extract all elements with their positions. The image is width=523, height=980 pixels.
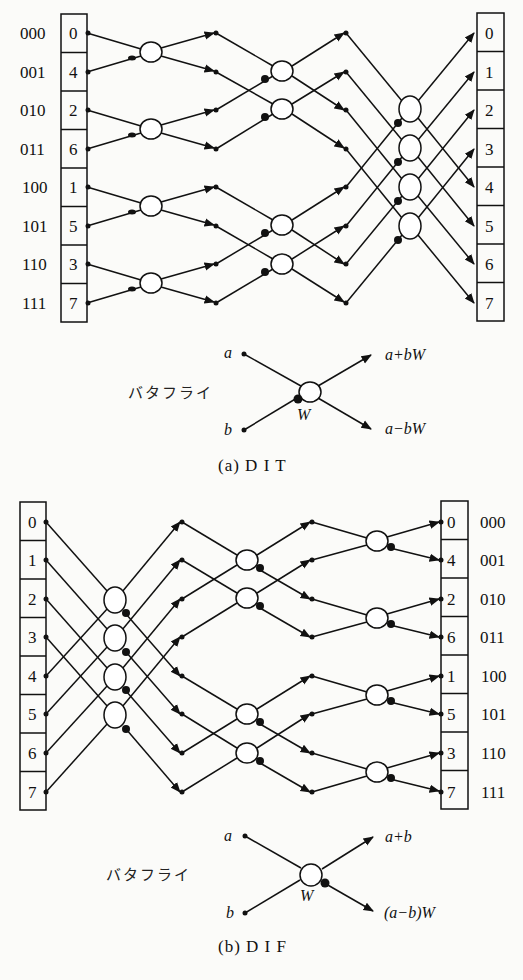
dif-output-bit-labels: 000 001 010 011 100 101 110 111: [480, 513, 507, 802]
svg-text:011: 011: [20, 140, 45, 159]
svg-text:b: b: [224, 421, 232, 438]
dit-stage-3: [346, 33, 474, 303]
svg-text:6: 6: [28, 744, 37, 763]
dif-input-register: [20, 502, 46, 810]
svg-text:7: 7: [28, 783, 37, 802]
svg-text:バタフライ: バタフライ: [106, 866, 191, 884]
svg-text:a: a: [224, 344, 232, 361]
dit-butterfly-circles: [140, 42, 421, 293]
svg-text:4: 4: [485, 178, 494, 197]
svg-text:011: 011: [480, 628, 505, 647]
svg-text:010: 010: [480, 590, 506, 609]
dit-input-register: [61, 14, 87, 322]
svg-text:2: 2: [447, 590, 456, 609]
svg-text:1: 1: [447, 667, 456, 686]
svg-text:7: 7: [485, 294, 494, 313]
dif-output-index-labels: 0 4 2 6 1 5 3 7: [447, 513, 456, 802]
svg-text:111: 111: [22, 294, 46, 313]
svg-text:000: 000: [20, 24, 46, 43]
svg-text:a: a: [224, 827, 232, 844]
svg-text:バタフライ: バタフライ: [128, 384, 213, 402]
dit-output-index-labels: 0 1 2 3 4 5 6 7: [485, 24, 494, 313]
svg-text:101: 101: [22, 217, 48, 236]
svg-text:0: 0: [485, 24, 494, 43]
svg-text:5: 5: [447, 705, 456, 724]
svg-text:1: 1: [28, 551, 37, 570]
svg-text:5: 5: [485, 217, 494, 236]
svg-text:000: 000: [480, 513, 506, 532]
svg-text:6: 6: [69, 140, 78, 159]
svg-text:5: 5: [69, 217, 78, 236]
dif-diagram: [20, 501, 468, 810]
svg-text:4: 4: [28, 667, 37, 686]
svg-text:100: 100: [481, 667, 507, 686]
svg-text:2: 2: [69, 101, 78, 120]
svg-text:001: 001: [480, 551, 506, 570]
svg-text:1: 1: [69, 178, 78, 197]
svg-text:010: 010: [20, 101, 46, 120]
svg-text:101: 101: [481, 705, 507, 724]
svg-text:111: 111: [481, 783, 505, 802]
svg-text:3: 3: [447, 744, 456, 763]
svg-text:3: 3: [28, 628, 37, 647]
dit-diagram: [61, 13, 504, 322]
svg-text:7: 7: [69, 294, 78, 313]
svg-text:6: 6: [485, 255, 494, 274]
dif-stage-1: [46, 522, 180, 792]
dit-stage-1: [87, 33, 214, 303]
dif-input-index-labels: 0 1 2 3 4 5 6 7: [28, 513, 37, 802]
dit-dots: [86, 31, 403, 306]
svg-text:5: 5: [28, 705, 37, 724]
svg-text:4: 4: [447, 551, 456, 570]
dit-butterfly-legend: バタフライ a b W a+bW a−bW: [128, 344, 427, 438]
dit-caption: (a) D I T: [218, 456, 287, 475]
dit-input-bit-labels: 000 001 010 011 100 101 110 111: [20, 24, 48, 313]
svg-text:W: W: [300, 887, 315, 904]
svg-text:2: 2: [28, 590, 37, 609]
svg-text:110: 110: [22, 255, 47, 274]
svg-text:2: 2: [485, 101, 494, 120]
svg-text:W: W: [297, 406, 312, 423]
svg-text:3: 3: [69, 255, 78, 274]
dif-caption: (b) D I F: [218, 937, 287, 956]
dif-butterfly-legend: バタフライ a b W a+b (a−b)W: [106, 827, 436, 922]
dif-stage-3: [312, 522, 439, 792]
svg-text:1: 1: [485, 63, 494, 82]
svg-text:4: 4: [69, 63, 78, 82]
svg-text:(a−b)W: (a−b)W: [384, 904, 436, 922]
svg-text:001: 001: [20, 63, 46, 82]
svg-text:a−bW: a−bW: [385, 420, 427, 437]
svg-text:6: 6: [447, 628, 456, 647]
dit-output-register: [477, 13, 504, 321]
fft-butterfly-diagram: 000 001 010 011 100 101 110 111 0 4 2 6 …: [0, 0, 523, 980]
svg-text:a+bW: a+bW: [385, 346, 427, 363]
dif-butterfly-circles: [104, 531, 388, 782]
svg-text:110: 110: [481, 744, 506, 763]
svg-text:0: 0: [69, 24, 78, 43]
svg-text:0: 0: [447, 513, 456, 532]
svg-text:0: 0: [28, 513, 37, 532]
svg-text:100: 100: [22, 178, 48, 197]
svg-text:7: 7: [447, 783, 456, 802]
svg-text:3: 3: [485, 140, 494, 159]
svg-text:b: b: [226, 904, 234, 921]
svg-text:a+b: a+b: [385, 828, 412, 845]
